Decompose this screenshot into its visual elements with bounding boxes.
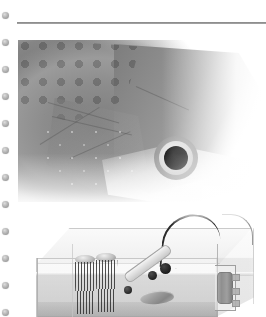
filter-clip <box>232 274 240 281</box>
photo-edge-fade <box>18 40 266 202</box>
scanned-page <box>0 0 266 317</box>
filter-clip <box>232 300 240 307</box>
binding-hole-icon <box>2 147 9 154</box>
aquarium-setup-figure <box>16 212 266 317</box>
fish-head-figure <box>18 40 266 202</box>
binding-hole-icon <box>2 66 9 73</box>
binding-hole-icon <box>2 282 9 289</box>
spawning-mop-right <box>93 253 119 311</box>
filter-clip <box>232 288 240 295</box>
binding-hole-icon <box>2 309 9 316</box>
binding-hole-icon <box>2 201 9 208</box>
mop-strands <box>93 260 119 312</box>
binding-hole-icon <box>2 12 9 19</box>
binding-hole-icon <box>2 174 9 181</box>
probe-band <box>160 263 171 274</box>
probe-band <box>148 271 157 280</box>
binding-margin <box>0 0 14 317</box>
horizontal-rule <box>17 22 266 24</box>
filter-cylinder <box>217 272 233 304</box>
tank-rear-cable <box>222 214 253 245</box>
tank-glass-seam <box>253 230 254 304</box>
binding-hole-icon <box>2 39 9 46</box>
binding-hole-icon <box>2 255 9 262</box>
binding-hole-icon <box>2 228 9 235</box>
binding-hole-icon <box>2 120 9 127</box>
tank-glass-seam <box>37 258 38 317</box>
binding-hole-icon <box>2 93 9 100</box>
tank-substrate <box>38 302 218 317</box>
probe-tip <box>124 286 132 294</box>
